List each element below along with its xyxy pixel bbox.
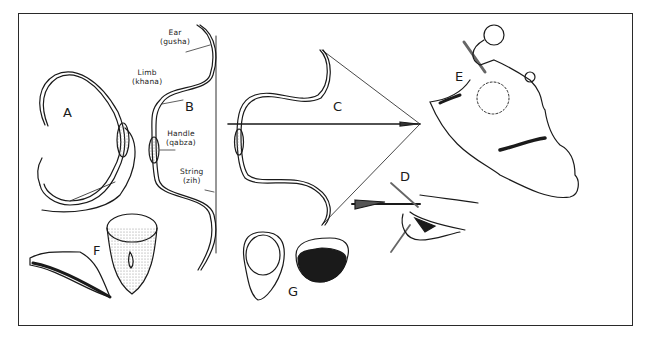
part-label-limb: Limb (khana)	[132, 69, 162, 86]
label-panel-b: B	[185, 100, 194, 113]
part-label-handle: Handle (qabza)	[166, 130, 196, 147]
hand-d-drawing	[352, 183, 478, 252]
label-panel-a: A	[63, 106, 72, 119]
fragment-e-drawing	[430, 25, 578, 198]
label-panel-g: G	[288, 285, 298, 298]
label-panel-d: D	[400, 170, 410, 183]
label-panel-e: E	[455, 70, 463, 83]
bow-b-drawing	[149, 25, 216, 270]
part-label-ear: Ear (gusha)	[160, 29, 190, 46]
line-drawings	[0, 0, 652, 341]
part-label-string: String (zih)	[180, 168, 204, 185]
bow-a-drawing	[38, 72, 135, 212]
bow-c-drawing	[228, 50, 420, 225]
bow-figure: A B C D E F G Ear (gusha) Limb (khana) H…	[0, 0, 652, 341]
label-panel-c: C	[333, 100, 342, 113]
label-panel-f: F	[93, 244, 100, 257]
